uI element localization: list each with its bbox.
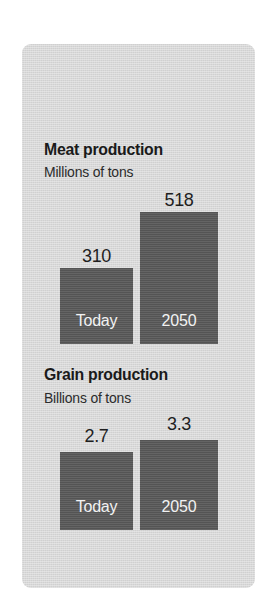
grain-section-subtitle: Billions of tons (44, 389, 131, 406)
grain-section-title: Grain production (44, 365, 168, 385)
chart-panel: Meat production Millions of tons 310 518… (22, 44, 255, 588)
grain-value-label-2050: 3.3 (140, 414, 218, 435)
meat-value-label-2050: 518 (140, 190, 218, 211)
meat-value-label-today: 310 (60, 246, 133, 267)
meat-bar-2050[interactable]: 2050 (140, 212, 218, 344)
grain-bar-caption-2050: 2050 (140, 498, 218, 516)
grain-bar-today[interactable]: Today (60, 452, 133, 530)
infographic-root: Meat production Millions of tons 310 518… (0, 0, 274, 610)
meat-bar-caption-2050: 2050 (140, 312, 218, 330)
grain-bar-caption-today: Today (60, 498, 133, 516)
meat-section-subtitle: Millions of tons (44, 163, 133, 180)
grain-bar-2050[interactable]: 2050 (140, 440, 218, 530)
meat-bar-today[interactable]: Today (60, 268, 133, 344)
meat-section-title: Meat production (44, 140, 163, 160)
grain-value-label-today: 2.7 (60, 426, 133, 447)
meat-bar-caption-today: Today (60, 312, 133, 330)
